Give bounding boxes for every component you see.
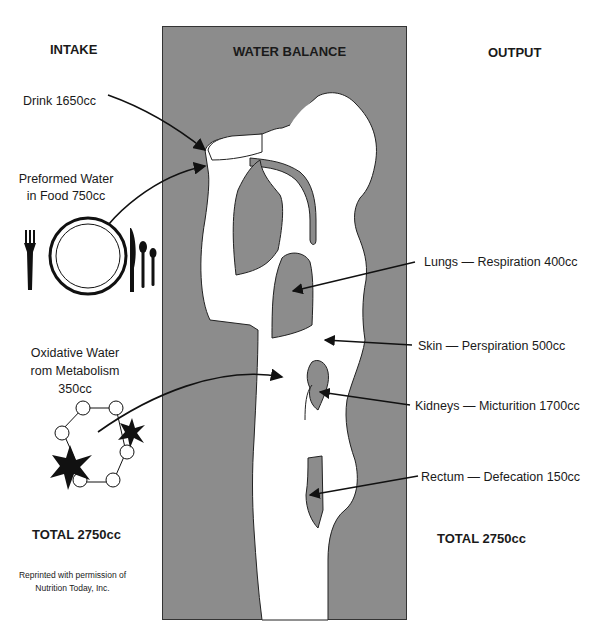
intake-metabolism-line1: Oxidative Water — [10, 344, 140, 362]
diagram-title: WATER BALANCE — [233, 44, 346, 59]
intake-food-line1: Preformed Water — [16, 172, 116, 186]
spoon-icon — [139, 241, 147, 288]
small-spoon-icon — [150, 248, 157, 286]
plate-icon — [50, 218, 126, 294]
output-heading: OUTPUT — [488, 45, 541, 60]
intake-metabolism-label: Oxidative Water rom Metabolism 350cc — [10, 344, 140, 398]
output-kidneys-label: Kidneys — Micturition 1700cc — [415, 399, 580, 413]
intake-drink-label: Drink 1650cc — [23, 94, 96, 108]
intake-metabolism-line3: 350cc — [10, 380, 140, 398]
fork-icon — [24, 230, 36, 290]
intake-total: TOTAL 2750cc — [32, 527, 121, 542]
credit-line2: Nutrition Today, Inc. — [10, 582, 135, 595]
output-rectum-label: Rectum — Defecation 150cc — [421, 470, 580, 484]
intake-food-label: Preformed Water in Food 750cc — [16, 172, 116, 203]
drink-arrow — [108, 95, 205, 150]
intake-metabolism-line2: rom Metabolism — [10, 362, 140, 380]
credit-line1: Reprinted with permission of — [10, 569, 135, 582]
output-total: TOTAL 2750cc — [437, 531, 526, 546]
output-lungs-label: Lungs — Respiration 400cc — [424, 255, 578, 269]
intake-heading: INTAKE — [50, 42, 97, 57]
credit-text: Reprinted with permission of Nutrition T… — [10, 569, 135, 595]
intake-food-line2: in Food 750cc — [16, 189, 116, 203]
knife-icon — [130, 228, 136, 292]
output-skin-label: Skin — Perspiration 500cc — [418, 339, 565, 353]
